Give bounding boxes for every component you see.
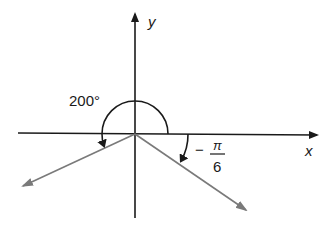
x-axis-label: x (304, 142, 313, 159)
angle-label-denominator: 6 (213, 158, 221, 175)
angle-label-200: 200° (69, 92, 100, 109)
angle-diagram: y x 200° − π 6 (0, 0, 331, 234)
y-axis-label: y (147, 13, 157, 30)
ray-negative-pi-over-6 (135, 134, 246, 210)
angle-label-numerator: π (213, 138, 222, 153)
angle-label-sign: − (195, 141, 204, 158)
arc-negative-pi-over-6 (181, 134, 188, 161)
ray-200-degrees (23, 134, 135, 186)
